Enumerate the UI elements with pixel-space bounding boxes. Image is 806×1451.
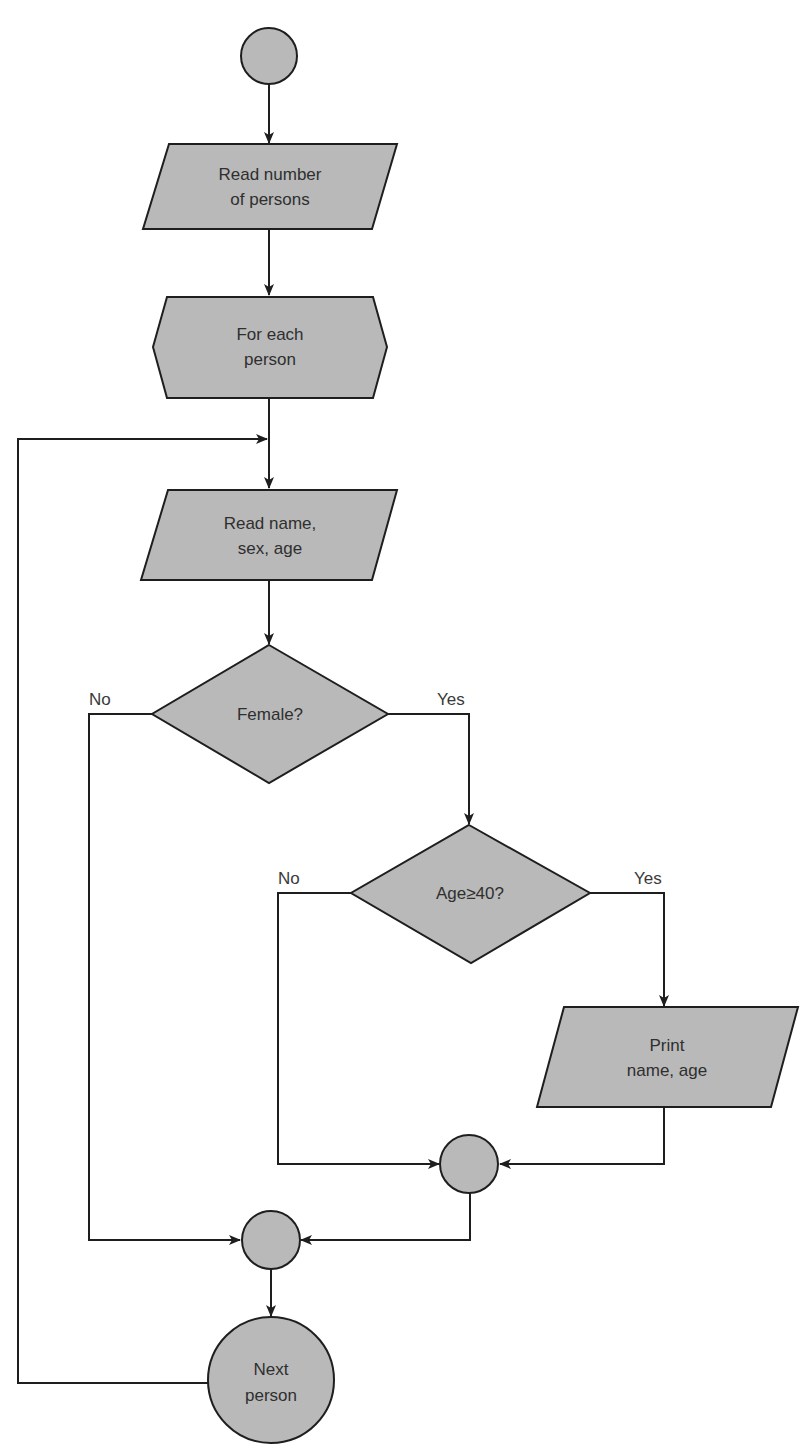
female-yes-label: Yes bbox=[437, 690, 465, 709]
age-label: Age≥40? bbox=[436, 884, 504, 903]
read-person-line-2: sex, age bbox=[238, 539, 302, 558]
read-count-line-1: Read number bbox=[218, 165, 321, 184]
loop-line-2: person bbox=[244, 350, 296, 369]
age-yes-label: Yes bbox=[634, 869, 662, 888]
start-node bbox=[241, 28, 297, 84]
print-node: Print name, age bbox=[537, 1007, 798, 1107]
connector-join-inner-to-outer bbox=[301, 1193, 470, 1240]
next-person-node: Next person bbox=[208, 1317, 334, 1443]
join-inner-circle bbox=[440, 1135, 498, 1193]
next-person-line-1: Next bbox=[254, 1360, 289, 1379]
next-person-circle bbox=[208, 1317, 334, 1443]
start-circle bbox=[241, 28, 297, 84]
connector-age-yes bbox=[590, 893, 664, 1006]
connector-age-no bbox=[278, 893, 439, 1164]
female-decision-node: Female? bbox=[152, 645, 388, 783]
next-person-line-2: person bbox=[245, 1386, 297, 1405]
age-decision-node: Age≥40? bbox=[351, 825, 590, 963]
read-count-node: Read number of persons bbox=[143, 144, 397, 229]
join-inner-node bbox=[440, 1135, 498, 1193]
connector-female-no bbox=[89, 714, 240, 1240]
join-outer-circle bbox=[242, 1211, 300, 1269]
loop-hexagon bbox=[153, 297, 387, 398]
read-person-line-1: Read name, bbox=[224, 514, 317, 533]
print-line-1: Print bbox=[650, 1036, 685, 1055]
flowchart: Read number of persons For each person R… bbox=[0, 0, 806, 1451]
loop-line-1: For each bbox=[236, 325, 303, 344]
age-no-label: No bbox=[278, 869, 300, 888]
read-count-parallelogram bbox=[143, 144, 397, 229]
connector-female-yes bbox=[388, 714, 469, 824]
loop-node: For each person bbox=[153, 297, 387, 398]
read-person-parallelogram bbox=[141, 490, 397, 580]
print-line-2: name, age bbox=[627, 1061, 707, 1080]
read-person-node: Read name, sex, age bbox=[141, 490, 397, 580]
connector-print-to-join bbox=[500, 1107, 664, 1164]
print-parallelogram bbox=[537, 1007, 798, 1107]
join-outer-node bbox=[242, 1211, 300, 1269]
read-count-line-2: of persons bbox=[230, 190, 309, 209]
female-no-label: No bbox=[89, 690, 111, 709]
female-label: Female? bbox=[237, 705, 303, 724]
